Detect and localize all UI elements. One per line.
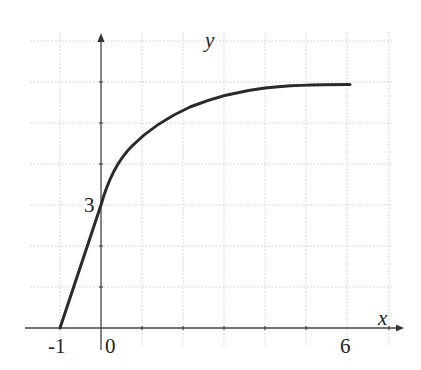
- y-axis: [98, 33, 105, 350]
- chart-canvas: [0, 0, 421, 370]
- tick-label-neg1: -1: [48, 336, 66, 357]
- grid: [30, 32, 392, 345]
- tick-label-y3: 3: [84, 195, 95, 216]
- x-axis-label: x: [378, 308, 387, 329]
- tick-label-6: 6: [340, 336, 351, 357]
- y-axis-label: y: [205, 30, 214, 51]
- tick-label-0: 0: [105, 336, 116, 357]
- x-axis-arrow-icon: [396, 325, 404, 332]
- y-axis-arrow-icon: [98, 33, 105, 42]
